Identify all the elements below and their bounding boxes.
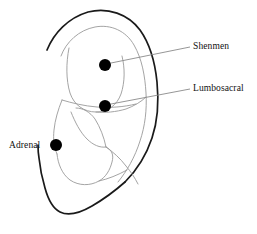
ear-illustration bbox=[0, 0, 257, 234]
point-label-adrenal: Adrenal bbox=[9, 141, 40, 151]
antihelix-line bbox=[67, 48, 124, 112]
point-marker-lumbosacral[interactable] bbox=[99, 100, 111, 112]
point-label-lumbosacral: Lumbosacral bbox=[193, 84, 244, 94]
point-marker-adrenal[interactable] bbox=[50, 139, 62, 151]
ear-acupuncture-diagram: Shenmen Lumbosacral Adrenal bbox=[0, 0, 257, 234]
earlobe-inner-line bbox=[57, 147, 113, 185]
point-label-shenmen: Shenmen bbox=[193, 42, 229, 52]
leader-lines bbox=[111, 47, 190, 104]
leader-line-lumbosacral bbox=[111, 89, 190, 104]
point-marker-shenmen[interactable] bbox=[99, 59, 111, 71]
concha-inner-line bbox=[76, 108, 106, 147]
